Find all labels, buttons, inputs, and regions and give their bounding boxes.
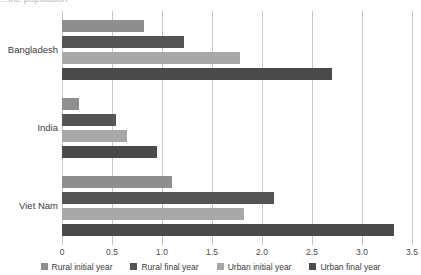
bar-bangladesh-urban-initial-year [62,52,240,64]
legend-swatch-icon [130,263,137,270]
x-tick-label-3-5: 3.5 [406,247,418,257]
legend-item-urban-final-year[interactable]: Urban final year [309,262,380,272]
x-tick-label-2-0: 2.0 [256,247,268,257]
plot-area [62,11,412,245]
legend-swatch-icon [309,263,316,270]
x-tick-label-1-5: 1.5 [206,247,218,257]
bar-india-urban-final-year [62,146,157,158]
x-tick-label-3-0: 3.0 [356,247,368,257]
legend-label: Rural final year [141,262,198,272]
bar-india-rural-final-year [62,114,116,126]
x-axis-tick-labels: 00.51.01.52.02.53.03.5 [0,247,421,259]
bar-india-urban-initial-year [62,130,127,142]
legend-label: Rural initial year [52,262,113,272]
chart-legend: Rural initial yearRural final yearUrban … [0,260,421,273]
bar-viet-nam-rural-initial-year [62,176,172,188]
bar-chart-figure: ...the population BangladeshIndiaViet Na… [0,0,421,275]
gridline-2-5 [312,11,313,245]
legend-item-urban-initial-year[interactable]: Urban initial year [217,262,292,272]
y-axis-category-labels: BangladeshIndiaViet Nam [0,11,58,245]
bar-viet-nam-urban-initial-year [62,208,244,220]
x-tick-label-0-5: 0.5 [106,247,118,257]
bar-bangladesh-rural-final-year [62,36,184,48]
gridline-3-5 [412,11,413,245]
bar-bangladesh-rural-initial-year [62,20,144,32]
x-tick-label-0: 0 [60,247,65,257]
legend-item-rural-initial-year[interactable]: Rural initial year [41,262,113,272]
y-axis-label-bangladesh: Bangladesh [2,44,58,55]
legend-swatch-icon [41,263,48,270]
y-axis-label-india: India [2,122,58,133]
gridline-2 [262,11,263,245]
chart-title: ...the population [0,0,260,7]
legend-label: Urban initial year [228,262,292,272]
legend-item-rural-final-year[interactable]: Rural final year [130,262,198,272]
bar-india-rural-initial-year [62,98,79,110]
x-tick-label-2-5: 2.5 [306,247,318,257]
x-tick-label-1-0: 1.0 [156,247,168,257]
legend-label: Urban final year [320,262,380,272]
bar-viet-nam-rural-final-year [62,192,274,204]
legend-swatch-icon [217,263,224,270]
gridline-3 [362,11,363,245]
y-axis-label-viet-nam: Viet Nam [2,200,58,211]
bar-viet-nam-urban-final-year [62,224,394,236]
bar-bangladesh-urban-final-year [62,68,332,80]
